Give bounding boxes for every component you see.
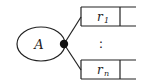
- connector-line-top: [64, 17, 81, 44]
- relation-subscript-bottom: n: [104, 69, 109, 78]
- relation-subscript-top: 1: [104, 16, 109, 25]
- relation-box-top: r 1: [81, 7, 136, 26]
- entity-label: A: [33, 37, 43, 52]
- vertical-ellipsis: :: [99, 36, 103, 51]
- relation-label-top: r: [97, 10, 104, 24]
- diagram-canvas: A r 1 : r n: [0, 0, 141, 84]
- relation-box-bottom: r n: [81, 60, 136, 79]
- junction-dot: [60, 40, 68, 48]
- connector-line-bottom: [64, 44, 81, 70]
- relation-label-bottom: r: [97, 63, 104, 77]
